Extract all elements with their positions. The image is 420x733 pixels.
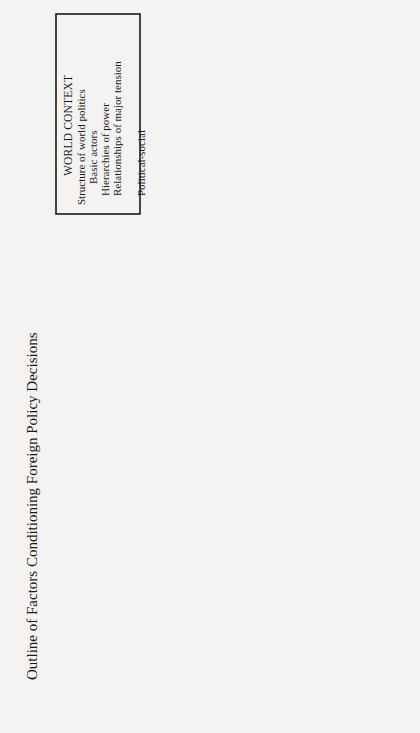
- world-context-line: Basic actors: [87, 131, 99, 184]
- world-context-box: WORLD CONTEXT Structure of world politic…: [0, 0, 147, 214]
- world-context-line: Political-social: [135, 130, 147, 196]
- world-context-line: Relationships of major tension: [111, 61, 123, 196]
- world-context-line: Structure of world politics: [75, 89, 87, 205]
- world-context-line: Transnational forces: [0, 0, 90, 2]
- world-context-line: Hierarchies of power: [99, 103, 111, 196]
- diagram-title: Outline of Factors Conditioning Foreign …: [24, 332, 40, 680]
- world-context-heading: WORLD CONTEXT: [62, 75, 74, 176]
- foreign-policy-diagram: Outline of Factors Conditioning Foreign …: [0, 0, 420, 733]
